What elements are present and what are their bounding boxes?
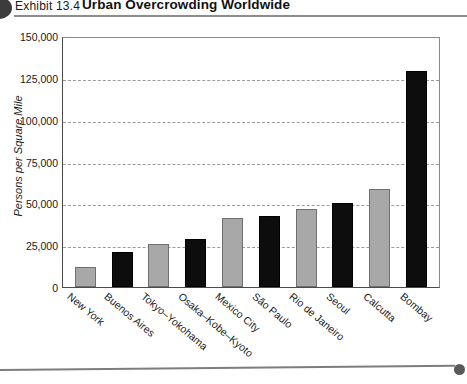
bar-slot (177, 38, 214, 287)
bar[interactable] (369, 189, 390, 287)
x-axis-tick-label: Seoul (324, 290, 352, 316)
bar[interactable] (112, 252, 133, 287)
bar[interactable] (148, 244, 169, 287)
y-axis-tick-label: 100,000 (20, 115, 58, 127)
header-tab-decoration (0, 0, 12, 19)
y-axis-tick-label: 25,000 (26, 240, 58, 252)
y-axis-ticks: 150,000125,000100,00075,00050,00025,0000 (0, 37, 58, 288)
bar[interactable] (75, 267, 96, 287)
y-axis-title: Persons per Square Mile (12, 76, 24, 236)
y-axis-tick-label: 0 (52, 282, 58, 294)
x-axis-tick-label: Tokyo–Yokohama (139, 290, 210, 352)
y-axis-tick-label: 50,000 (26, 198, 58, 210)
exhibit-page: Exhibit 13.4 Urban Overcrowding Worldwid… (0, 0, 467, 384)
bar-series (63, 38, 439, 287)
x-axis-tick-label: New York (65, 290, 107, 328)
y-axis-tick-label: 75,000 (26, 157, 58, 169)
bar[interactable] (259, 216, 280, 287)
bar-slot (398, 38, 435, 287)
bar[interactable] (296, 209, 317, 287)
exhibit-header: Exhibit 13.4 Urban Overcrowding Worldwid… (0, 0, 467, 17)
exhibit-label: Exhibit 13.4 (15, 0, 80, 13)
bar[interactable] (222, 218, 243, 287)
bar-slot (67, 38, 104, 287)
footer-rule (0, 365, 455, 371)
bar-slot (288, 38, 325, 287)
bar[interactable] (185, 239, 206, 287)
x-axis-tick-label: Calcutta (361, 290, 398, 324)
y-axis-tick-label: 125,000 (20, 73, 58, 85)
page-title: Urban Overcrowding Worldwide (82, 0, 290, 12)
footer-dot-decoration (454, 364, 465, 375)
header-rule (14, 15, 467, 17)
bar-slot (325, 38, 362, 287)
bar-slot (104, 38, 141, 287)
x-axis-labels: New YorkBuenos AiresTokyo–YokohamaOsaka–… (62, 290, 440, 360)
y-axis-tick-label: 150,000 (20, 31, 58, 43)
bar-slot (141, 38, 178, 287)
bar-slot (251, 38, 288, 287)
bar-slot (214, 38, 251, 287)
x-axis-tick-label: Bombay (398, 290, 435, 324)
chart-plot-area (62, 37, 440, 288)
bar-slot (361, 38, 398, 287)
bar[interactable] (406, 71, 427, 287)
bar[interactable] (332, 203, 353, 288)
